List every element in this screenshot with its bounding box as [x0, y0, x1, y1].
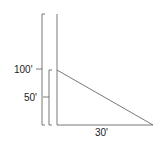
- height-50-bracket: [43, 70, 52, 125]
- label-100: 100': [14, 64, 33, 75]
- label-50: 50': [24, 92, 37, 103]
- diagram-canvas: 100' 50' 30': [0, 0, 160, 144]
- right-triangle: [57, 70, 153, 125]
- hypotenuse: [57, 70, 153, 125]
- height-100-bracket: [36, 14, 45, 125]
- label-30: 30': [95, 127, 108, 138]
